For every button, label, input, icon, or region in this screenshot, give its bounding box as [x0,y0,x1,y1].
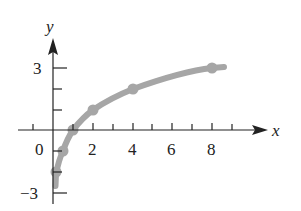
x-tick-label-2: 2 [88,140,97,159]
data-points [51,63,218,178]
x-tick-label-8: 8 [207,140,216,159]
x-tick-label-6: 6 [167,140,176,159]
x-axis-label: x [271,121,280,140]
y-tick-label-3: 3 [33,59,42,78]
y-axis-label: y [44,17,54,36]
log-curve [56,67,225,186]
x-tick-label-4: 4 [128,140,137,159]
x-tick-label-0: 0 [35,140,44,159]
chart: y x 0 2 4 6 8 3 −3 [0,0,301,211]
y-tick-label-neg3: −3 [20,184,38,203]
